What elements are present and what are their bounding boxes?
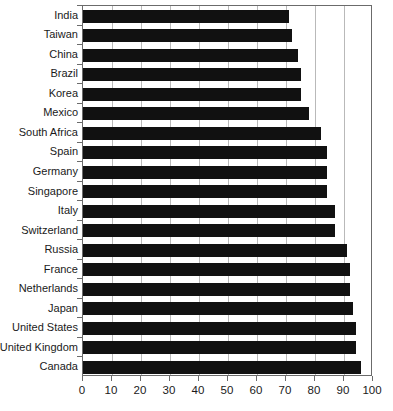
y-tick (77, 259, 82, 260)
y-tick (77, 356, 82, 357)
bar-row (83, 6, 373, 26)
bar-row (83, 143, 373, 163)
x-tick-30 (169, 376, 170, 381)
bar-chart: IndiaTaiwanChinaBrazilKoreaMexicoSouth A… (0, 0, 393, 411)
y-axis-label-taiwan: Taiwan (44, 28, 78, 40)
bar-series (83, 6, 371, 375)
bar-korea (83, 88, 301, 101)
x-axis-label-30: 30 (154, 383, 184, 397)
bar-netherlands (83, 283, 350, 296)
bar-india (83, 10, 289, 23)
bar-spain (83, 146, 327, 159)
y-axis-label-singapore: Singapore (28, 185, 78, 197)
bar-row (83, 84, 373, 104)
bar-row (83, 260, 373, 280)
y-axis-label-south-africa: South Africa (19, 126, 78, 138)
y-axis-label-spain: Spain (50, 145, 78, 157)
bar-row (83, 221, 373, 241)
bar-row (83, 357, 373, 377)
bar-france (83, 263, 350, 276)
y-tick (77, 161, 82, 162)
bar-row (83, 162, 373, 182)
bar-mexico (83, 107, 309, 120)
y-axis-label-italy: Italy (58, 204, 78, 216)
y-tick (77, 337, 82, 338)
x-tick-60 (256, 376, 257, 381)
x-axis-label-70: 70 (270, 383, 300, 397)
x-axis-label-80: 80 (299, 383, 329, 397)
bar-united-kingdom (83, 341, 356, 354)
bar-china (83, 49, 298, 62)
y-tick (77, 122, 82, 123)
y-axis-label-united-states: United States (12, 321, 78, 333)
bar-south-africa (83, 127, 321, 140)
x-axis-label-0: 0 (67, 383, 97, 397)
plot-area (82, 5, 372, 376)
y-axis-label-canada: Canada (39, 360, 78, 372)
bar-row (83, 299, 373, 319)
y-axis-label-united-kingdom: United Kingdom (0, 341, 78, 353)
y-axis-label-germany: Germany (33, 165, 78, 177)
bar-russia (83, 244, 347, 257)
y-axis-label-netherlands: Netherlands (19, 282, 78, 294)
bar-germany (83, 166, 327, 179)
bar-taiwan (83, 29, 292, 42)
y-tick (77, 83, 82, 84)
x-tick-80 (314, 376, 315, 381)
y-axis-label-china: China (49, 48, 78, 60)
bar-row (83, 182, 373, 202)
y-axis-label-mexico: Mexico (43, 106, 78, 118)
x-tick-50 (227, 376, 228, 381)
x-axis-label-100: 100 (357, 383, 387, 397)
bar-row (83, 240, 373, 260)
x-axis-label-40: 40 (183, 383, 213, 397)
y-tick (77, 220, 82, 221)
y-tick (77, 317, 82, 318)
y-axis-label-japan: Japan (48, 302, 78, 314)
y-axis-label-switzerland: Switzerland (21, 224, 78, 236)
bar-switzerland (83, 224, 335, 237)
x-tick-20 (140, 376, 141, 381)
bar-italy (83, 205, 335, 218)
bar-canada (83, 361, 361, 374)
bar-row (83, 279, 373, 299)
y-tick (77, 142, 82, 143)
x-axis-label-90: 90 (328, 383, 358, 397)
y-tick (77, 278, 82, 279)
bar-row (83, 26, 373, 46)
bar-row (83, 45, 373, 65)
y-tick (77, 239, 82, 240)
y-tick (77, 64, 82, 65)
x-tick-90 (343, 376, 344, 381)
y-tick (77, 25, 82, 26)
y-axis-label-russia: Russia (44, 243, 78, 255)
y-tick (77, 5, 82, 6)
y-tick (77, 298, 82, 299)
x-tick-70 (285, 376, 286, 381)
x-axis-label-10: 10 (96, 383, 126, 397)
x-axis-label-50: 50 (212, 383, 242, 397)
x-tick-10 (111, 376, 112, 381)
x-axis-label-60: 60 (241, 383, 271, 397)
bar-united-states (83, 322, 356, 335)
y-axis-label-india: India (54, 9, 78, 21)
y-tick (77, 200, 82, 201)
bar-brazil (83, 68, 301, 81)
x-tick-40 (198, 376, 199, 381)
y-axis-label-france: France (44, 263, 78, 275)
bar-japan (83, 302, 353, 315)
bar-row (83, 318, 373, 338)
bar-row (83, 104, 373, 124)
y-axis-label-korea: Korea (49, 87, 78, 99)
y-tick (77, 44, 82, 45)
x-tick-0 (82, 376, 83, 381)
bar-row (83, 338, 373, 358)
x-axis-label-20: 20 (125, 383, 155, 397)
y-tick (77, 103, 82, 104)
bar-row (83, 201, 373, 221)
y-axis-label-brazil: Brazil (50, 67, 78, 79)
bar-singapore (83, 185, 327, 198)
bar-row (83, 123, 373, 143)
bar-row (83, 65, 373, 85)
x-tick-100 (372, 376, 373, 381)
